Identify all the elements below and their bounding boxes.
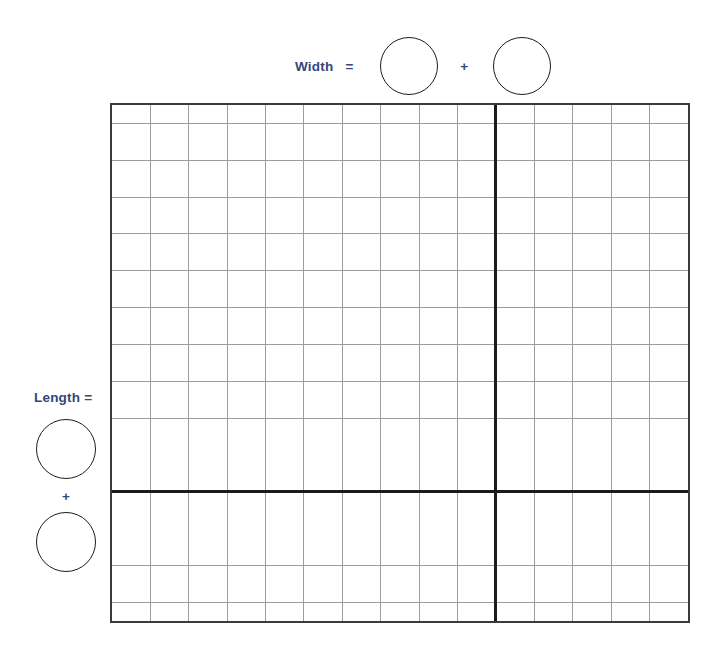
grid-cell[interactable] bbox=[342, 492, 380, 566]
grid-cell[interactable] bbox=[611, 492, 649, 566]
grid-cell[interactable] bbox=[458, 381, 496, 418]
grid-cell[interactable] bbox=[573, 123, 611, 160]
grid-cell[interactable] bbox=[381, 566, 419, 603]
grid-cell[interactable] bbox=[458, 123, 496, 160]
grid-cell[interactable] bbox=[649, 308, 688, 345]
grid-cell[interactable] bbox=[381, 234, 419, 271]
grid-cell[interactable] bbox=[381, 197, 419, 234]
grid-cell[interactable] bbox=[227, 308, 265, 345]
grid-cell[interactable] bbox=[611, 271, 649, 308]
grid-cell[interactable] bbox=[342, 160, 380, 197]
grid-cell[interactable] bbox=[342, 344, 380, 381]
grid-cell[interactable] bbox=[419, 344, 457, 381]
grid-cell[interactable] bbox=[496, 271, 534, 308]
grid-cell[interactable] bbox=[496, 344, 534, 381]
grid-cell[interactable] bbox=[458, 566, 496, 603]
grid-cell[interactable] bbox=[112, 492, 150, 566]
grid-cell[interactable] bbox=[304, 418, 342, 492]
grid-cell[interactable] bbox=[304, 271, 342, 308]
grid-cell[interactable] bbox=[227, 197, 265, 234]
grid-cell[interactable] bbox=[611, 566, 649, 603]
grid-cell[interactable] bbox=[150, 197, 188, 234]
grid-cell[interactable] bbox=[189, 492, 227, 566]
grid-cell[interactable] bbox=[381, 381, 419, 418]
grid-cell[interactable] bbox=[611, 308, 649, 345]
grid-cell[interactable] bbox=[342, 381, 380, 418]
grid-cell[interactable] bbox=[419, 418, 457, 492]
grid-cell[interactable] bbox=[458, 160, 496, 197]
grid-cell[interactable] bbox=[189, 308, 227, 345]
grid-cell[interactable] bbox=[304, 566, 342, 603]
grid-cell[interactable] bbox=[419, 602, 457, 621]
grid-cell[interactable] bbox=[534, 602, 572, 621]
grid-cell[interactable] bbox=[534, 123, 572, 160]
grid-cell[interactable] bbox=[112, 344, 150, 381]
grid-cell[interactable] bbox=[227, 492, 265, 566]
grid-cell[interactable] bbox=[112, 271, 150, 308]
grid-cell[interactable] bbox=[573, 418, 611, 492]
grid-cell[interactable] bbox=[573, 160, 611, 197]
grid-cell[interactable] bbox=[112, 105, 150, 123]
grid-cell[interactable] bbox=[266, 602, 304, 621]
grid-cell[interactable] bbox=[112, 602, 150, 621]
grid-cell[interactable] bbox=[649, 566, 688, 603]
grid-cell[interactable] bbox=[534, 197, 572, 234]
grid-cell[interactable] bbox=[304, 381, 342, 418]
grid-cell[interactable] bbox=[458, 308, 496, 345]
grid-cell[interactable] bbox=[266, 566, 304, 603]
grid-cell[interactable] bbox=[266, 344, 304, 381]
grid-cell[interactable] bbox=[573, 344, 611, 381]
grid-cell[interactable] bbox=[304, 105, 342, 123]
grid-cell[interactable] bbox=[381, 105, 419, 123]
grid-cell[interactable] bbox=[573, 234, 611, 271]
grid-cell[interactable] bbox=[649, 123, 688, 160]
grid-cell[interactable] bbox=[189, 566, 227, 603]
grid-cell[interactable] bbox=[112, 566, 150, 603]
grid-cell[interactable] bbox=[419, 492, 457, 566]
grid-cell[interactable] bbox=[227, 381, 265, 418]
grid-cell[interactable] bbox=[266, 271, 304, 308]
grid-cell[interactable] bbox=[534, 271, 572, 308]
grid-cell[interactable] bbox=[304, 123, 342, 160]
area-model-grid[interactable] bbox=[110, 103, 690, 623]
grid-cell[interactable] bbox=[458, 602, 496, 621]
grid-cell[interactable] bbox=[534, 381, 572, 418]
grid-cell[interactable] bbox=[534, 105, 572, 123]
grid-cell[interactable] bbox=[112, 123, 150, 160]
grid-cell[interactable] bbox=[458, 418, 496, 492]
grid-cell[interactable] bbox=[304, 602, 342, 621]
width-blank-circle-1[interactable] bbox=[380, 37, 438, 95]
width-blank-circle-2[interactable] bbox=[493, 37, 551, 95]
grid-cell[interactable] bbox=[611, 197, 649, 234]
grid-cell[interactable] bbox=[266, 492, 304, 566]
grid-cell[interactable] bbox=[381, 602, 419, 621]
grid-cell[interactable] bbox=[189, 381, 227, 418]
grid-cell[interactable] bbox=[189, 344, 227, 381]
grid-cell[interactable] bbox=[266, 381, 304, 418]
length-blank-circle-1[interactable] bbox=[36, 419, 96, 479]
grid-cell[interactable] bbox=[342, 234, 380, 271]
grid-cell[interactable] bbox=[458, 197, 496, 234]
grid-cell[interactable] bbox=[611, 105, 649, 123]
grid-cell[interactable] bbox=[419, 308, 457, 345]
grid-cell[interactable] bbox=[496, 566, 534, 603]
grid-cell[interactable] bbox=[573, 105, 611, 123]
grid-cell[interactable] bbox=[611, 123, 649, 160]
grid-cell[interactable] bbox=[534, 234, 572, 271]
grid-cell[interactable] bbox=[342, 308, 380, 345]
grid-cell[interactable] bbox=[150, 344, 188, 381]
grid-cell[interactable] bbox=[649, 381, 688, 418]
grid-cell[interactable] bbox=[649, 602, 688, 621]
grid-cell[interactable] bbox=[227, 160, 265, 197]
grid-cell[interactable] bbox=[458, 234, 496, 271]
grid-cell[interactable] bbox=[649, 271, 688, 308]
grid-cell[interactable] bbox=[189, 418, 227, 492]
grid-cell[interactable] bbox=[189, 105, 227, 123]
grid-cell[interactable] bbox=[496, 602, 534, 621]
grid-cell[interactable] bbox=[496, 160, 534, 197]
grid-cell[interactable] bbox=[227, 271, 265, 308]
grid-cell[interactable] bbox=[611, 160, 649, 197]
grid-cell[interactable] bbox=[189, 197, 227, 234]
grid-cell[interactable] bbox=[150, 566, 188, 603]
grid-cell[interactable] bbox=[573, 566, 611, 603]
